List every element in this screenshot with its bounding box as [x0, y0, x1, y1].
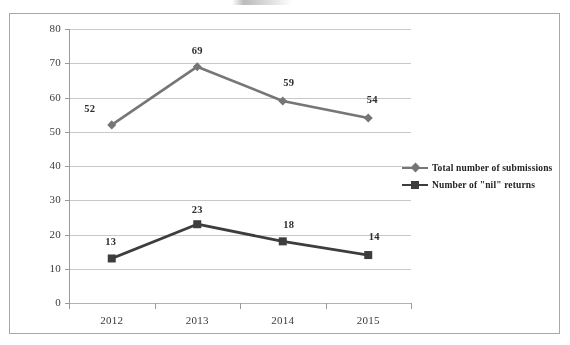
y-axis-tick-label: 30 — [28, 193, 61, 205]
data-point-label: 13 — [95, 236, 127, 247]
legend-item-label: Total number of submissions — [432, 163, 552, 173]
y-axis-tick-label: 50 — [28, 125, 61, 137]
x-axis-tick-label: 2014 — [253, 314, 313, 326]
legend-item[interactable]: Number of "nil" returns — [402, 177, 552, 192]
x-axis-tick — [240, 303, 241, 309]
square-marker — [193, 220, 201, 228]
y-axis-tick — [65, 235, 70, 236]
y-axis-tick-label: 60 — [28, 91, 61, 103]
series-line — [112, 224, 369, 258]
gridline — [69, 166, 411, 167]
x-axis-tick-label: 2013 — [167, 314, 227, 326]
x-axis-tick — [326, 303, 327, 309]
chart-frame: 01020304050607080 2012201320142015 52695… — [9, 13, 560, 334]
legend-item-label: Number of "nil" returns — [432, 180, 535, 190]
y-axis-tick-label: 0 — [28, 296, 61, 308]
gridline — [69, 269, 411, 270]
gridline — [69, 200, 411, 201]
x-axis-tick-label: 2015 — [338, 314, 398, 326]
y-axis-tick — [65, 166, 70, 167]
y-axis-tick — [65, 269, 70, 270]
y-axis-tick — [65, 29, 70, 30]
x-axis-tick-label: 2012 — [82, 314, 142, 326]
y-axis-tick — [65, 98, 70, 99]
gridline — [69, 132, 411, 133]
series-line — [112, 67, 369, 125]
square-marker-icon — [402, 179, 428, 191]
x-axis-tick — [155, 303, 156, 309]
y-axis-tick-label: 70 — [28, 56, 61, 68]
y-axis-tick — [65, 200, 70, 201]
y-axis-tick-label: 20 — [28, 228, 61, 240]
diamond-marker — [107, 120, 116, 129]
diamond-marker — [364, 114, 373, 123]
y-axis-tick-label: 40 — [28, 159, 61, 171]
square-marker — [108, 254, 116, 262]
chart-legend: Total number of submissionsNumber of "ni… — [402, 160, 552, 194]
data-point-label: 59 — [273, 77, 305, 88]
data-point-label: 54 — [356, 94, 388, 105]
scan-artifact — [232, 0, 292, 5]
y-axis-tick — [65, 132, 70, 133]
data-point-label: 69 — [181, 45, 213, 56]
y-axis-tick-label: 80 — [28, 22, 61, 34]
gridline — [69, 29, 411, 30]
data-point-label: 52 — [74, 103, 106, 114]
x-axis-tick — [411, 303, 412, 309]
legend-item[interactable]: Total number of submissions — [402, 160, 552, 175]
data-point-label: 18 — [273, 219, 305, 230]
data-point-label: 23 — [181, 204, 213, 215]
square-marker — [364, 251, 372, 259]
square-marker — [279, 237, 287, 245]
diamond-marker-icon — [402, 162, 428, 174]
y-axis-tick-label: 10 — [28, 262, 61, 274]
gridline — [69, 63, 411, 64]
x-axis-tick — [69, 303, 70, 309]
y-axis-tick — [65, 63, 70, 64]
data-point-label: 14 — [358, 231, 390, 242]
